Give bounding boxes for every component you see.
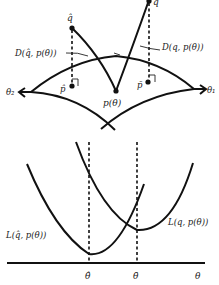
d-right-leader — [140, 46, 160, 50]
q-label: q — [153, 0, 159, 7]
p-hat-label: p̂ — [60, 84, 66, 94]
p-theta-point — [113, 88, 118, 93]
q-to-p-theta-line — [116, 0, 149, 91]
loss-panel: L(q̂, p(θ)) L(q, p(θ)) θ̂ θ̄ θ — [5, 142, 208, 281]
theta2-label: θ₂ — [6, 87, 15, 97]
q-hat-label: q̂ — [67, 13, 73, 23]
p-bar-point — [145, 79, 150, 84]
loss-curve-q-hat — [27, 164, 144, 254]
d-left-label: D(q̂, p(θ)) — [14, 48, 56, 58]
d-left-leader — [66, 53, 88, 56]
loss-q-label: L(q, p(θ)) — [167, 217, 208, 227]
theta-axis-label: θ — [195, 271, 201, 281]
theta-bar-tick-label: θ̄ — [133, 271, 139, 281]
manifold-top-tick — [114, 53, 120, 55]
p-theta-label: p(θ) — [103, 98, 122, 108]
q-hat-point — [69, 25, 74, 30]
theta1-label: θ₁ — [207, 85, 216, 95]
loss-q-hat-label: L(q̂, p(θ)) — [5, 230, 46, 240]
d-right-label: D(q, p(θ)) — [161, 42, 203, 52]
manifold-upper-arc — [31, 56, 194, 92]
diagram-canvas: q̂ q p̂ p̄ p(θ) D(q̂, p(θ)) D(q, p(θ)) θ… — [0, 0, 219, 285]
manifold-panel: q̂ q p̂ p̄ p(θ) D(q̂, p(θ)) D(q, p(θ)) θ… — [6, 0, 216, 130]
p-bar-label: p̄ — [137, 80, 143, 90]
theta-hat-tick-label: θ̂ — [85, 271, 91, 281]
p-hat-point — [69, 83, 74, 88]
manifold-right-lower-arc — [101, 89, 194, 129]
